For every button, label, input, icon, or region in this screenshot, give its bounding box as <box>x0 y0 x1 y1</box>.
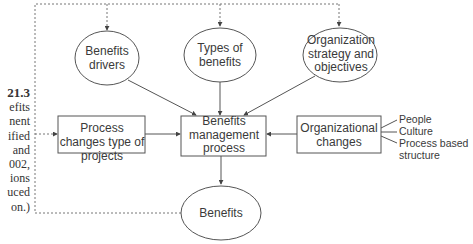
label-process-changes: Process changes type of projects <box>58 121 146 163</box>
label-types-of-benefits: Types of benefits <box>190 41 250 69</box>
label-org-changes: Organizational changes <box>297 121 381 149</box>
figure-number: 21.3 <box>7 86 30 100</box>
label-org-strategy: Organization strategy and objectives <box>305 34 377 75</box>
org-change-process-structure: Process based structure <box>399 138 469 161</box>
label-benefits-mgmt-process: Benefits management process <box>185 115 263 156</box>
org-change-culture: Culture <box>399 126 433 138</box>
feedback-loop <box>35 4 339 213</box>
label-benefits: Benefits <box>181 206 261 220</box>
label-benefits-drivers: Benefits drivers <box>80 44 134 72</box>
figure-caption: 21.3 efits nent ified and 002, ions uced… <box>7 86 30 214</box>
org-change-people: People <box>399 114 432 126</box>
